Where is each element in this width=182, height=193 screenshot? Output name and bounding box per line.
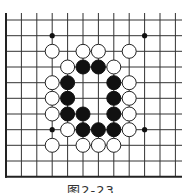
white-stone-icon	[76, 44, 90, 58]
black-stone-icon	[61, 76, 75, 90]
black-stone-icon	[76, 60, 90, 74]
white-stone-icon	[45, 91, 59, 105]
white-stone-icon	[107, 60, 121, 74]
black-stone-icon	[76, 107, 90, 121]
white-stone-icon	[122, 91, 136, 105]
white-stone-icon	[122, 76, 136, 90]
white-stone-icon	[122, 107, 136, 121]
go-board	[0, 0, 182, 182]
black-stone-icon	[107, 107, 121, 121]
white-stone-icon	[45, 107, 59, 121]
white-stone-icon	[122, 123, 136, 137]
grid-lines	[5, 13, 182, 178]
white-stone-icon	[61, 123, 75, 137]
black-stone-icon	[61, 107, 75, 121]
white-stone-icon	[107, 138, 121, 152]
figure-caption: 图2-23	[0, 183, 182, 193]
star-point-icon	[50, 127, 55, 132]
black-stone-icon	[107, 123, 121, 137]
white-stone-icon	[76, 138, 90, 152]
black-stone-icon	[107, 76, 121, 90]
white-stone-icon	[45, 76, 59, 90]
black-stone-icon	[107, 91, 121, 105]
star-point-icon	[50, 33, 55, 38]
white-stone-icon	[122, 44, 136, 58]
white-stone-icon	[91, 44, 105, 58]
white-stone-icon	[45, 44, 59, 58]
black-stone-icon	[91, 60, 105, 74]
black-stone-icon	[76, 123, 90, 137]
white-stone-icon	[61, 60, 75, 74]
black-stone-icon	[91, 123, 105, 137]
white-stone-icon	[45, 138, 59, 152]
black-stone-icon	[61, 91, 75, 105]
white-stone-icon	[91, 138, 105, 152]
star-point-icon	[142, 127, 147, 132]
star-point-icon	[142, 33, 147, 38]
